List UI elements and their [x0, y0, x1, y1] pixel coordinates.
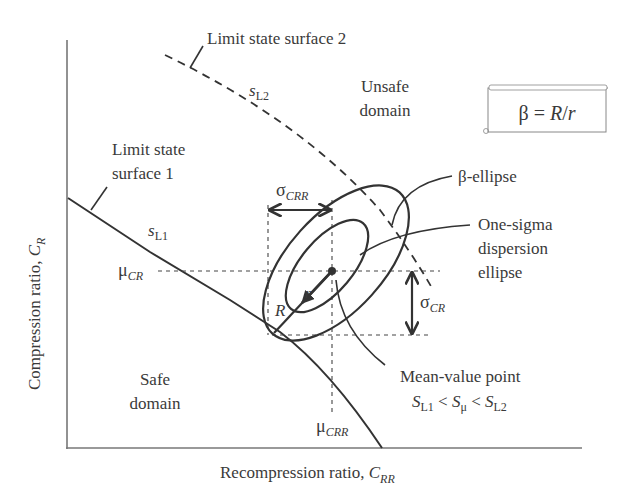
reliability-diagram: Recompression ratio, CRR Compression rat… [0, 0, 632, 503]
beta-formula: β = R/r [518, 102, 575, 125]
limit-surface-2-leader [190, 46, 203, 68]
limit-surface-1-leader [91, 187, 107, 210]
r-label: r [305, 285, 311, 301]
beta-ellipse-leader [392, 176, 452, 225]
mean-point-leader [336, 280, 385, 365]
mu-cr-label: μCR [118, 260, 144, 283]
mu-crr-label: μCRR [316, 416, 349, 439]
mean-inequality: SL1 < Sμ < SL2 [412, 392, 507, 414]
safe-domain-label-2: domain [130, 394, 181, 413]
s-l2-label: sL2 [249, 81, 269, 103]
one-sigma-ellipse [271, 206, 383, 325]
limit-surface-2-label: Limit state surface 2 [207, 29, 346, 48]
y-axis-label: Compression ratio, CR [25, 237, 48, 390]
unsafe-domain-label-2: domain [360, 101, 411, 120]
safe-domain-label: Safe [140, 370, 170, 389]
sigma-crr-label: σCRR [276, 180, 309, 203]
limit-state-surface-1-curve [68, 198, 382, 448]
limit-surface-1-label: Limit state [112, 140, 185, 159]
beta-ellipse-label: β-ellipse [458, 167, 517, 186]
s-l1-label: sL1 [148, 221, 168, 243]
limit-surface-1-label-2: surface 1 [112, 164, 174, 183]
one-sigma-label-2: dispersion [478, 239, 548, 258]
one-sigma-leader [360, 225, 470, 255]
one-sigma-label-3: ellipse [478, 263, 522, 282]
mean-point-label: Mean-value point [400, 367, 521, 386]
x-axis-label: Recompression ratio, CRR [220, 463, 395, 486]
one-sigma-label-1: One-sigma [478, 215, 553, 234]
formula-box: β = R/r [484, 85, 609, 134]
sigma-cr-label: σCR [420, 292, 446, 315]
unsafe-domain-label: Unsafe [361, 77, 409, 96]
R-label: R [274, 301, 286, 320]
